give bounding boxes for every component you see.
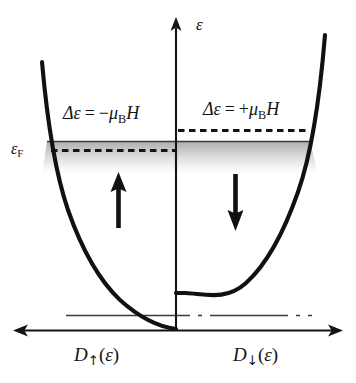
dos-down-argument: ε bbox=[264, 344, 272, 365]
pauli-paramagnetism-figure: ε Δε=−μBH Δε=+μBH εF D↑(ε) D↓(ε) bbox=[0, 0, 356, 383]
fermi-smearing-band bbox=[40, 141, 322, 175]
fermi-level-label: εF bbox=[11, 141, 23, 159]
delta-up-sign: − bbox=[99, 103, 109, 123]
delta-down-lhs: Δε bbox=[203, 99, 221, 119]
dos-down-close-paren: ) bbox=[272, 344, 278, 365]
delta-epsilon-down-label: Δε=+μBH bbox=[203, 100, 279, 121]
delta-down-sign: + bbox=[239, 99, 249, 119]
energy-axis-symbol: ε bbox=[196, 15, 203, 34]
delta-down-mu-subscript: B bbox=[258, 108, 266, 122]
spin-up-arrow bbox=[111, 172, 127, 228]
delta-up-lhs: Δε bbox=[63, 103, 81, 123]
delta-down-equals: = bbox=[225, 99, 235, 119]
delta-down-mu: μ bbox=[249, 99, 258, 119]
delta-epsilon-up-label: Δε=−μBH bbox=[63, 104, 139, 125]
dos-down-symbol: D bbox=[233, 344, 247, 365]
delta-up-equals: = bbox=[85, 103, 95, 123]
dos-up-symbol: D bbox=[74, 344, 88, 365]
delta-up-field: H bbox=[126, 103, 139, 123]
dos-up-argument: ε bbox=[105, 344, 113, 365]
energy-axis-label: ε bbox=[196, 16, 203, 33]
spin-down-arrow bbox=[228, 174, 244, 231]
fermi-subscript: F bbox=[17, 147, 23, 159]
dos-up-close-paren: ) bbox=[113, 344, 119, 365]
spin-down-arrow-glyph-icon: ↓ bbox=[247, 353, 258, 368]
figure-canvas bbox=[0, 0, 356, 383]
dos-up-label: D↑(ε) bbox=[74, 345, 119, 367]
spin-up-arrow-glyph-icon: ↑ bbox=[88, 353, 99, 368]
delta-up-mu-subscript: B bbox=[118, 112, 126, 126]
delta-down-field: H bbox=[266, 99, 279, 119]
dos-down-label: D↓(ε) bbox=[233, 345, 278, 367]
delta-up-mu: μ bbox=[109, 103, 118, 123]
